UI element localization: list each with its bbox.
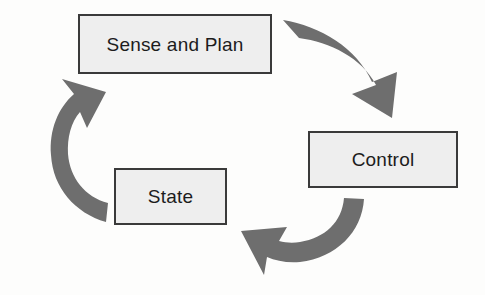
diagram-canvas: Sense and Plan Control State bbox=[0, 0, 485, 295]
node-state: State bbox=[114, 168, 227, 225]
arrow-control-to-state bbox=[241, 198, 364, 275]
arrow-state-to-sense bbox=[51, 79, 108, 222]
node-sense-and-plan: Sense and Plan bbox=[78, 14, 272, 74]
node-state-label: State bbox=[148, 187, 193, 206]
node-sense-and-plan-label: Sense and Plan bbox=[107, 35, 244, 54]
node-control-label: Control bbox=[352, 150, 415, 169]
node-control: Control bbox=[308, 131, 458, 188]
arrow-sense-to-control bbox=[283, 20, 397, 118]
